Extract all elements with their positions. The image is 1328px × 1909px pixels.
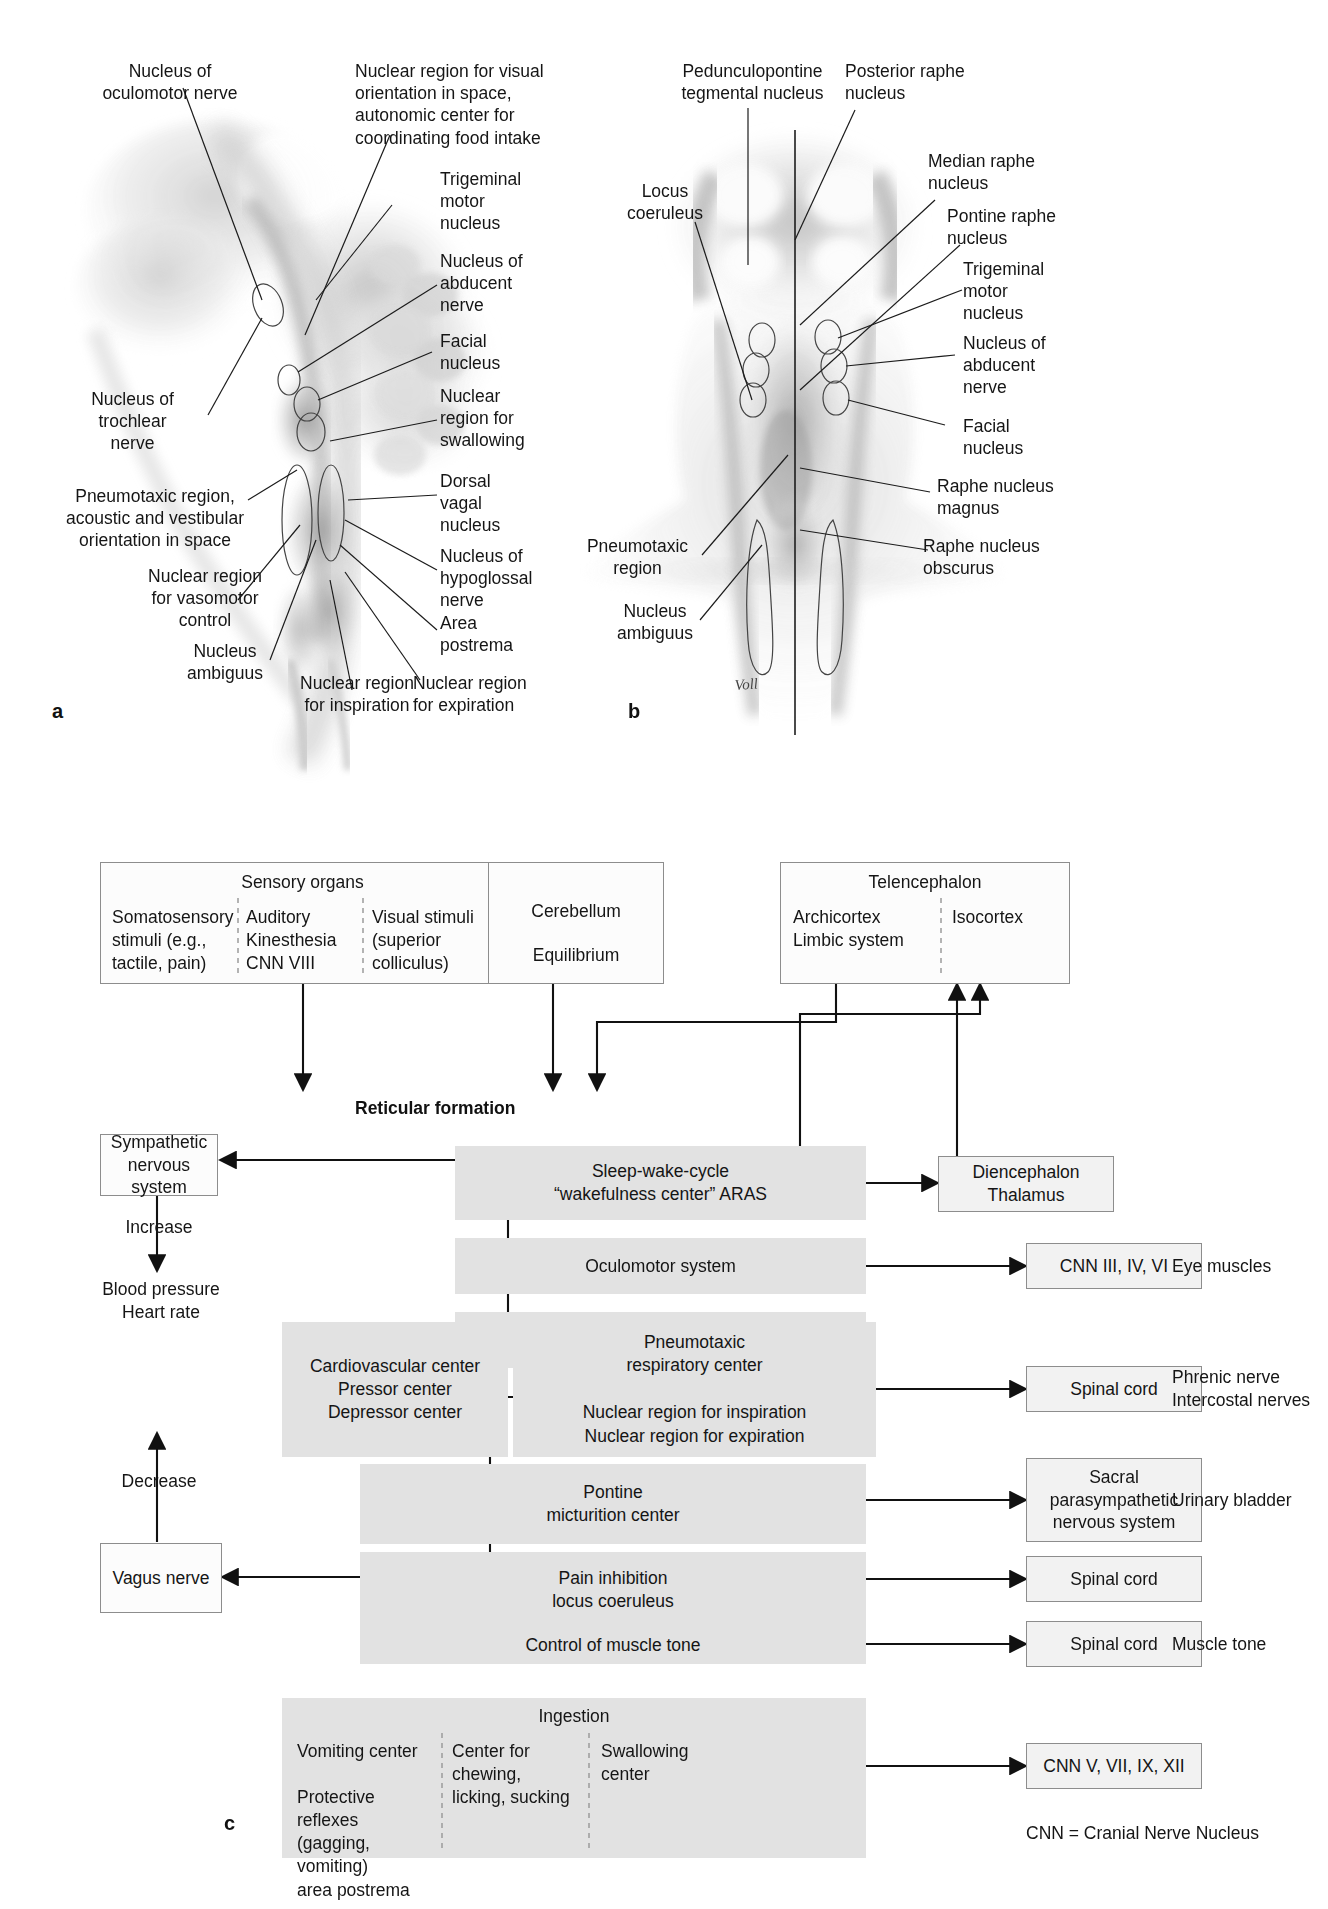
effector-urinary-bladder: Urinary bladder xyxy=(1172,1489,1292,1512)
vagus-nerve-box: Vagus nerve xyxy=(100,1543,222,1613)
label-decrease: Decrease xyxy=(100,1470,218,1493)
footnote-cnn: CNN = Cranial Nerve Nucleus xyxy=(1026,1822,1259,1845)
target-diencephalon-thalamus: Diencephalon Thalamus xyxy=(938,1156,1114,1212)
target-cnn-5-7-9-12: CNN V, VII, IX, XII xyxy=(1026,1743,1202,1789)
label-blood-pressure-heart-rate: Blood pressure Heart rate xyxy=(88,1278,234,1324)
target-spinal-cord-pain: Spinal cord xyxy=(1026,1556,1202,1602)
figure-reticular-formation: Voll xyxy=(0,0,1328,1909)
effector-eye-muscles: Eye muscles xyxy=(1172,1255,1271,1278)
sympathetic-nervous-system-box: Sympathetic nervous system xyxy=(100,1134,218,1196)
effector-phrenic-intercostal: Phrenic nerve Intercostal nerves xyxy=(1172,1366,1310,1412)
effector-muscle-tone: Muscle tone xyxy=(1172,1633,1266,1656)
label-increase: Increase xyxy=(100,1216,218,1239)
panel-c-letter: c xyxy=(224,1812,235,1835)
